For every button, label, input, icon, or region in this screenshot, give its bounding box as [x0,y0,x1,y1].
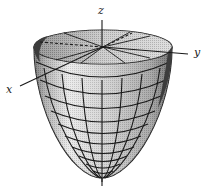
paraboloid-svg [0,0,208,190]
paraboloid-figure: z x y [0,0,208,190]
z-axis-label: z [98,5,104,16]
x-axis-label: x [6,84,12,95]
y-axis-label: y [194,47,200,58]
